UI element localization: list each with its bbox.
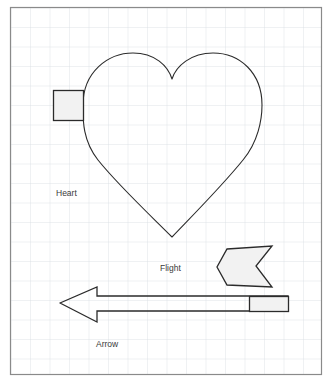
label-heart: Heart — [56, 188, 77, 198]
arrow-tail-rectangle[interactable] — [250, 297, 289, 312]
label-flight: Flight — [160, 263, 181, 273]
label-arrow: Arrow — [96, 339, 119, 349]
drawing-surface[interactable]: Heart Flight Arrow — [0, 0, 332, 386]
drawing-canvas: Heart Flight Arrow — [0, 0, 332, 386]
heart-handle-rectangle[interactable] — [54, 91, 84, 121]
